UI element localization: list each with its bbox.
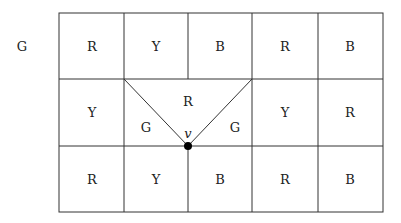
middle-right-label: G xyxy=(230,120,240,135)
cell-r2-c2: B xyxy=(215,172,225,187)
cell-r0-c1: Y xyxy=(151,39,161,54)
cell-r1-c0: Y xyxy=(87,105,97,120)
triangle-left-edge xyxy=(124,79,188,146)
cell-r0-c4: B xyxy=(345,39,355,54)
middle-top-label: R xyxy=(183,94,194,109)
cell-r0-c3: R xyxy=(280,39,291,54)
cell-r1-c4: R xyxy=(345,105,356,120)
grid-diagram: G R Y B R B Y R G G v Y R R Y B R B xyxy=(0,0,401,223)
middle-left-label: G xyxy=(141,120,151,135)
vertex-v xyxy=(184,142,192,150)
cell-r0-c0: R xyxy=(87,39,98,54)
vertex-label: v xyxy=(184,126,192,141)
cell-r1-c3: Y xyxy=(280,105,290,120)
cell-r2-c0: R xyxy=(87,172,98,187)
cell-r0-c2: B xyxy=(215,39,225,54)
outside-label: G xyxy=(17,39,27,54)
cell-r2-c4: B xyxy=(345,172,355,187)
cell-r2-c1: Y xyxy=(151,172,161,187)
triangle-right-edge xyxy=(188,79,252,146)
cell-r2-c3: R xyxy=(280,172,291,187)
